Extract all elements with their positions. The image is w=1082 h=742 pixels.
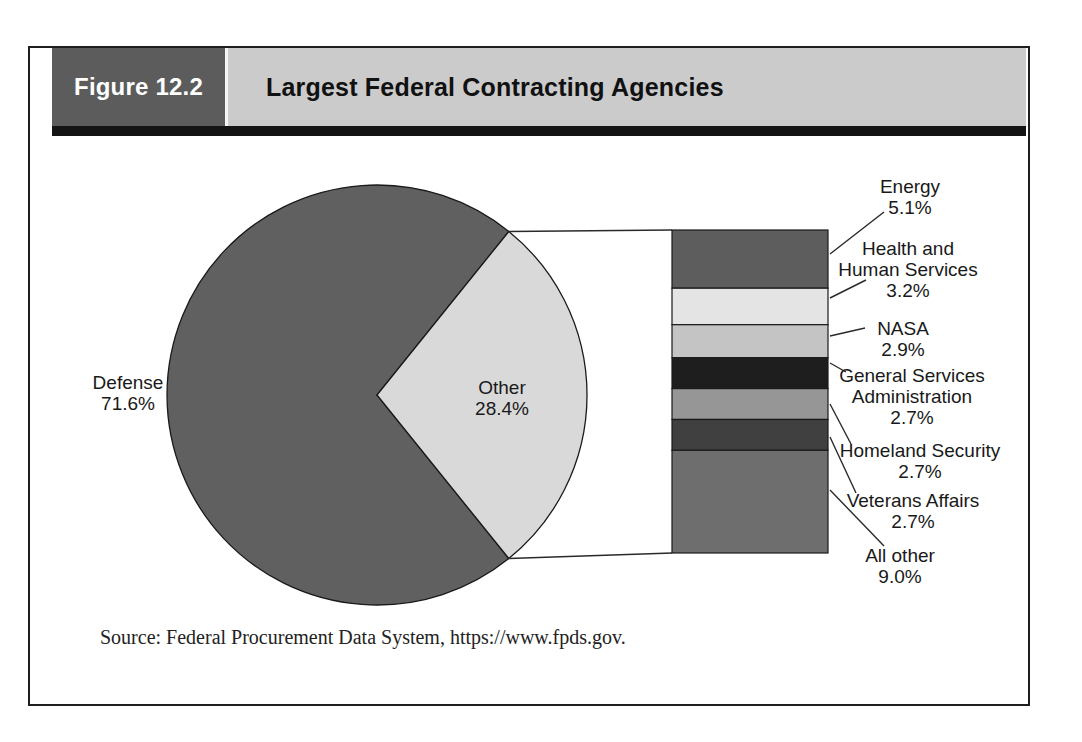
bar-label-nasa-name: NASA: [848, 318, 958, 339]
bar-label-nasa: NASA 2.9%: [848, 318, 958, 360]
figure-title: Largest Federal Contracting Agencies: [228, 73, 724, 102]
bar-label-homeland-value: 2.7%: [830, 461, 1010, 482]
figure-page: Figure 12.2 Largest Federal Contracting …: [0, 0, 1082, 742]
figure-title-bar: Largest Federal Contracting Agencies: [225, 48, 1026, 126]
header-divider: [52, 126, 1026, 136]
bar-label-energy-name: Energy: [845, 176, 975, 197]
bar-label-energy: Energy 5.1%: [845, 176, 975, 218]
bar-label-nasa-value: 2.9%: [848, 339, 958, 360]
figure-number-box: Figure 12.2: [52, 48, 225, 126]
source-citation: Source: Federal Procurement Data System,…: [100, 626, 626, 649]
bar-label-veterans-affairs: Veterans Affairs 2.7%: [838, 490, 988, 532]
bar-label-general-services-administration: General Services Administration 2.7%: [827, 365, 997, 428]
pie-label-defense-name: Defense: [68, 372, 188, 393]
bar-label-all-other-value: 9.0%: [845, 566, 955, 587]
pie-label-other-value: 28.4%: [442, 398, 562, 419]
bar-label-veterans-value: 2.7%: [838, 511, 988, 532]
bar-label-veterans-name: Veterans Affairs: [838, 490, 988, 511]
bar-label-gsa-name: General Services Administration: [827, 365, 997, 407]
pie-label-other-name: Other: [442, 377, 562, 398]
bar-label-homeland-name: Homeland Security: [830, 440, 1010, 461]
pie-label-other: Other 28.4%: [442, 377, 562, 419]
bar-label-energy-value: 5.1%: [845, 197, 975, 218]
bar-label-hhs-value: 3.2%: [828, 280, 988, 301]
bar-label-all-other: All other 9.0%: [845, 545, 955, 587]
pie-label-defense: Defense 71.6%: [68, 372, 188, 414]
bar-label-gsa-value: 2.7%: [827, 407, 997, 428]
figure-number: Figure 12.2: [74, 73, 203, 101]
bar-label-hhs-name: Health and Human Services: [828, 238, 988, 280]
bar-label-health-and-human-services: Health and Human Services 3.2%: [828, 238, 988, 301]
pie-label-defense-value: 71.6%: [68, 393, 188, 414]
bar-label-homeland-security: Homeland Security 2.7%: [830, 440, 1010, 482]
bar-label-all-other-name: All other: [845, 545, 955, 566]
